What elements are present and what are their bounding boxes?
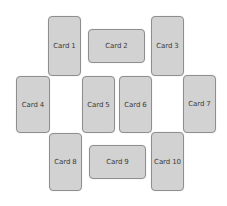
- card-2: Card 2: [88, 29, 145, 63]
- card-label: Card 8: [54, 158, 76, 166]
- card-5: Card 5: [82, 76, 115, 133]
- card-3: Card 3: [151, 16, 184, 76]
- card-6: Card 6: [119, 76, 152, 133]
- card-label: Card 4: [22, 101, 44, 109]
- card-label: Card 6: [124, 101, 146, 109]
- card-1: Card 1: [48, 16, 81, 76]
- card-label: Card 9: [106, 158, 128, 166]
- card-8: Card 8: [49, 133, 82, 191]
- card-9: Card 9: [89, 145, 146, 179]
- card-10: Card 10: [151, 132, 184, 191]
- card-layout-diagram: Card 1 Card 2 Card 3 Card 4 Card 5 Card …: [0, 0, 227, 206]
- card-label: Card 2: [105, 42, 127, 50]
- card-label: Card 1: [53, 42, 75, 50]
- card-label: Card 10: [154, 158, 181, 166]
- card-label: Card 7: [188, 100, 210, 108]
- card-4: Card 4: [16, 76, 50, 133]
- card-7: Card 7: [183, 75, 216, 133]
- card-label: Card 5: [87, 101, 109, 109]
- card-label: Card 3: [156, 42, 178, 50]
